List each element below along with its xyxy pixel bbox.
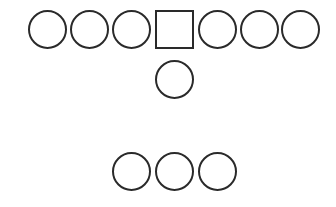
circle-shape bbox=[70, 10, 109, 49]
diagram-canvas bbox=[0, 0, 336, 207]
circle-shape bbox=[112, 10, 151, 49]
circle-shape bbox=[155, 152, 194, 191]
circle-shape bbox=[281, 10, 320, 49]
circle-shape bbox=[28, 10, 67, 49]
square-shape bbox=[155, 10, 194, 49]
circle-shape bbox=[155, 60, 194, 99]
circle-shape bbox=[198, 10, 237, 49]
circle-shape bbox=[198, 152, 237, 191]
circle-shape bbox=[112, 152, 151, 191]
circle-shape bbox=[240, 10, 279, 49]
